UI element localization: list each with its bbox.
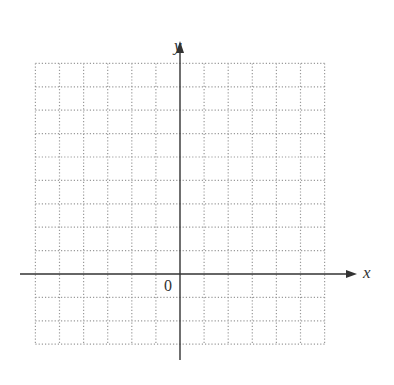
- origin-label: 0: [164, 277, 172, 295]
- grid-svg: [0, 0, 394, 385]
- x-axis-label: x: [363, 263, 371, 283]
- y-axis-label: y: [174, 36, 182, 56]
- x-axis-arrow-icon: [346, 270, 357, 278]
- coordinate-plane: y x 0: [0, 0, 394, 385]
